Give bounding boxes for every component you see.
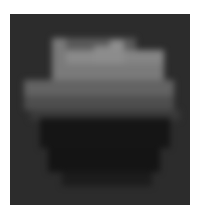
pixel-block: [66, 50, 94, 64]
pixel-block: [124, 50, 164, 64]
pixel-block: [24, 80, 174, 96]
pixel-block: [52, 38, 66, 64]
pixel-block: [48, 148, 160, 172]
pixel-block: [24, 96, 174, 110]
pixel-block: [40, 118, 170, 148]
pixel-block: [52, 64, 164, 80]
pixel-block: [110, 40, 124, 50]
pixel-block: [62, 172, 152, 186]
image-content: [10, 14, 190, 205]
pixelated-image: [10, 14, 190, 205]
